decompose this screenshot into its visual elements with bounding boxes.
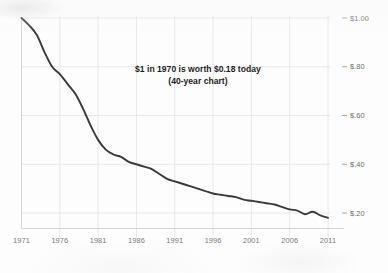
purchasing-power-chart: $1.00$.80$.60$.40$.20 197119761981198619… (0, 0, 388, 273)
x-axis-tick-labels: 197119761981198619911996200120062011 (13, 236, 336, 245)
annotation-secondary: (40-year chart) (168, 76, 227, 86)
x-tick-label-0: 1971 (13, 236, 30, 245)
y-tick-label-4: $.20 (350, 209, 365, 218)
x-tick-label-2: 1981 (90, 236, 107, 245)
annotation-primary: $1 in 1970 is worth $0.18 today (135, 64, 261, 74)
y-axis-tick-labels: $1.00$.80$.60$.40$.20 (350, 14, 369, 218)
y-tick-label-1: $.80 (350, 62, 365, 71)
y-tick-label-0: $1.00 (350, 14, 369, 23)
vertical-gridlines (60, 16, 328, 240)
y-tick-label-2: $.60 (350, 111, 365, 120)
x-tick-label-7: 2006 (281, 236, 298, 245)
x-tick-label-8: 2011 (320, 236, 336, 245)
x-tick-label-3: 1986 (128, 236, 145, 245)
x-tick-label-6: 2001 (243, 236, 260, 245)
x-tick-label-1: 1976 (51, 236, 68, 245)
x-tick-label-5: 1996 (205, 236, 222, 245)
horizontal-gridlines (22, 18, 331, 213)
y-tick-label-3: $.40 (350, 160, 365, 169)
chart-canvas: $1.00$.80$.60$.40$.20 197119761981198619… (0, 0, 388, 273)
y-axis-tick-marks (342, 18, 347, 213)
x-tick-label-4: 1991 (166, 236, 183, 245)
